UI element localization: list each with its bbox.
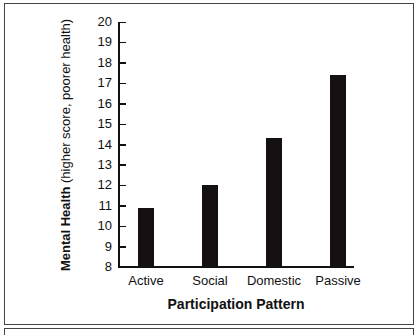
- divider: [4, 328, 414, 329]
- y-tick: [120, 164, 126, 166]
- bar-passive: [330, 75, 346, 267]
- y-tick-label: 10: [82, 219, 112, 233]
- y-tick: [120, 185, 126, 187]
- y-tick: [120, 22, 126, 24]
- y-tick: [120, 246, 126, 248]
- x-axis-title: Participation Pattern: [118, 296, 354, 312]
- y-tick-label: 16: [82, 97, 112, 111]
- y-tick-label: 17: [82, 76, 112, 90]
- y-tick: [120, 124, 126, 126]
- y-axis-title: Mental Health (higher score, poorer heal…: [58, 15, 73, 275]
- y-tick-label: 9: [82, 240, 112, 254]
- bar-domestic: [266, 138, 282, 267]
- y-tick-label: 14: [82, 138, 112, 152]
- y-tick-label: 19: [82, 35, 112, 49]
- y-tick: [120, 226, 126, 228]
- y-tick-label: 15: [82, 117, 112, 131]
- y-tick: [120, 42, 126, 44]
- divider: [4, 324, 414, 325]
- x-tick-label: Passive: [298, 273, 378, 288]
- y-tick: [120, 83, 126, 85]
- y-tick: [120, 103, 126, 105]
- divider: [4, 328, 5, 335]
- y-tick-label: 18: [82, 56, 112, 70]
- y-tick-label: 8: [82, 260, 112, 274]
- y-tick-label: 13: [82, 158, 112, 172]
- bar-social: [202, 185, 218, 267]
- y-tick-label: 11: [82, 199, 112, 213]
- y-tick: [120, 205, 126, 207]
- y-tick-label: 12: [82, 178, 112, 192]
- y-tick-label: 20: [82, 15, 112, 29]
- y-tick: [120, 144, 126, 146]
- divider: [413, 328, 414, 335]
- y-tick: [120, 62, 126, 64]
- bar-active: [138, 208, 154, 267]
